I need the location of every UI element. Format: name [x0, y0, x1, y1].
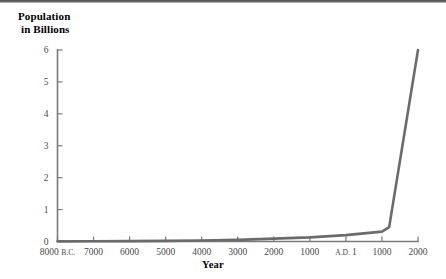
y-tick-label: 5: [44, 77, 49, 87]
x-tick-label: 1000: [372, 247, 391, 257]
top-divider-rule: [0, 0, 446, 3]
chart-axes: [58, 50, 419, 242]
x-tick-label: 7000: [84, 247, 103, 257]
y-tick-label: 0: [44, 237, 49, 247]
x-tick-label: 2000: [264, 247, 283, 257]
y-axis-title-line2: in Billions: [18, 23, 70, 36]
x-axis-title: Year: [0, 259, 446, 270]
y-axis-title-line1: Population: [18, 10, 70, 23]
population-line-chart: 0123456 8000 B.C.70006000500040003000200…: [0, 0, 446, 279]
y-tick-label: 6: [44, 45, 49, 55]
x-tick-label: 1000: [300, 247, 319, 257]
x-tick-label: 6000: [120, 247, 139, 257]
x-tick-label: 8000 B.C.: [40, 247, 75, 257]
y-axis-ticks: 0123456: [44, 45, 63, 247]
x-tick-label: 4000: [192, 247, 211, 257]
x-tick-label: 3000: [228, 247, 247, 257]
y-tick-label: 1: [44, 205, 49, 215]
x-tick-label: 5000: [156, 247, 175, 257]
y-tick-label: 3: [44, 141, 49, 151]
y-axis-title: Population in Billions: [18, 10, 70, 35]
y-tick-label: 4: [44, 109, 49, 119]
x-axis-title-text: Year: [202, 259, 224, 270]
population-series-line: [58, 50, 419, 241]
x-tick-label: 2000: [409, 247, 428, 257]
y-tick-label: 2: [44, 173, 49, 183]
chart-figure: Population in Billions 0123456 8000 B.C.…: [0, 0, 446, 279]
x-tick-label: A.D. 1: [335, 247, 357, 257]
